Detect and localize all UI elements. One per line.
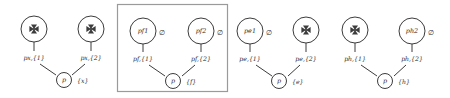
node-pf-right[interactable]: pf2	[188, 18, 214, 44]
node-label-ph2: ph2	[406, 27, 418, 35]
edge-pe-left-branch	[256, 65, 272, 76]
node-pf-left[interactable]: pf1	[130, 18, 156, 44]
node-label-pf2: pf2	[196, 27, 207, 35]
annotation-pf2-empty: ∅	[217, 29, 223, 37]
edge-label-pe-2: pe,{2}	[295, 55, 316, 63]
node-ph-left[interactable]	[342, 17, 368, 43]
root-set-px: {x}	[77, 77, 88, 85]
edge-label-px-1: px,{1}	[23, 54, 44, 62]
node-px-left[interactable]	[21, 16, 47, 42]
node-pe-root[interactable]: p	[272, 74, 287, 89]
root-set-pe: {e}	[292, 78, 304, 86]
annotation-pe1-empty: ∅	[266, 29, 272, 37]
edge-ph-right-branch	[394, 65, 406, 76]
edge-label-pe-1: pe,{1}	[239, 55, 260, 63]
group-px: px,{1} px,{2} p {x}	[21, 16, 104, 88]
root-label-pe: p	[277, 77, 281, 85]
root-label-ph: p	[383, 77, 387, 85]
group-pe: pe1 ∅ pe,{1} pe,{2} p {e}	[237, 17, 319, 89]
node-ph-root[interactable]: p	[378, 74, 393, 89]
node-label-pe1: pe1	[244, 27, 256, 35]
node-pf-root[interactable]: p	[166, 74, 181, 89]
root-label-pf: p	[171, 77, 175, 85]
root-label-px: p	[62, 76, 66, 84]
root-set-pf: {f}	[186, 78, 196, 86]
edge-label-pf-2: pf,{2}	[191, 55, 211, 63]
annotation-pf1-empty: ∅	[159, 29, 165, 37]
diagram-svg: px,{1} px,{2} p {x} pf1 ∅ pf,{1}	[0, 0, 450, 98]
edge-label-px-2: px,{2}	[80, 54, 101, 62]
edge-pe-right-branch	[288, 65, 300, 76]
edge-label-pf-1: pf,{1}	[133, 55, 153, 63]
group-pf: pf1 ∅ pf,{1} pf2 ∅ pf,{2} p {f}	[130, 18, 223, 89]
group-ph: ph,{1} ph2 ∅ ph,{2} p {h}	[342, 17, 434, 89]
edge-pf-left-branch	[149, 65, 165, 76]
figure-canvas: px,{1} px,{2} p {x} pf1 ∅ pf,{1}	[0, 0, 450, 98]
node-ph-right[interactable]: ph2	[399, 18, 425, 44]
node-label-pf1: pf1	[138, 27, 149, 35]
edge-px-left-branch	[40, 64, 56, 75]
root-set-ph: {h}	[398, 78, 410, 86]
node-px-right[interactable]	[78, 16, 104, 42]
node-pe-right[interactable]	[293, 17, 319, 43]
edge-px-right-branch	[72, 64, 85, 75]
edge-pf-right-branch	[182, 65, 195, 76]
edge-label-ph-1: ph,{1}	[344, 55, 366, 63]
node-px-root[interactable]: p	[57, 73, 72, 88]
edge-ph-left-branch	[361, 65, 377, 76]
node-pe-left[interactable]: pe1	[237, 18, 263, 44]
edge-label-ph-2: ph,{2}	[401, 55, 423, 63]
annotation-ph2-empty: ∅	[428, 29, 434, 37]
